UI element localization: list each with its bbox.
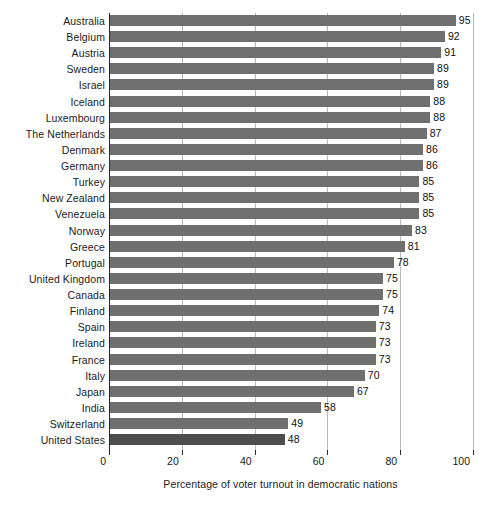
bar-row: Japan67 — [0, 385, 501, 401]
bar — [110, 47, 441, 58]
bar — [110, 402, 321, 413]
bar-row: Switzerland49 — [0, 417, 501, 433]
category-label: Iceland — [70, 96, 105, 108]
bar — [110, 192, 419, 203]
bar — [110, 31, 445, 42]
category-label: Australia — [63, 15, 105, 27]
category-label: Portugal — [65, 257, 105, 269]
x-tick-0 — [109, 450, 110, 455]
bar-value-label: 78 — [397, 256, 409, 268]
bar — [110, 128, 427, 139]
bar-row: Turkey85 — [0, 175, 501, 191]
bar-row: The Netherlands87 — [0, 127, 501, 143]
bar-row: United Kingdom75 — [0, 272, 501, 288]
bar — [110, 112, 430, 123]
category-label: Greece — [70, 241, 105, 253]
bar — [110, 289, 383, 300]
bar-value-label: 89 — [437, 62, 449, 74]
bar-row: Iceland88 — [0, 95, 501, 111]
bar-value-label: 85 — [422, 175, 434, 187]
category-label: United Kingdom — [29, 273, 105, 285]
category-label: Luxembourg — [46, 112, 105, 124]
x-tick-label-0: 0 — [100, 455, 109, 468]
bar-value-label: 87 — [430, 127, 442, 139]
category-label: Denmark — [62, 144, 105, 156]
bar-value-label: 70 — [368, 369, 380, 381]
bar — [110, 434, 285, 445]
category-label: Germany — [61, 160, 105, 172]
bar-row: Australia95 — [0, 14, 501, 30]
plot-area: Australia95Belgium92Austria91Sweden89Isr… — [0, 0, 501, 450]
bar-row: Denmark86 — [0, 143, 501, 159]
bar — [110, 144, 423, 155]
category-label: Sweden — [66, 63, 105, 75]
bar — [110, 160, 423, 171]
x-tick-80 — [400, 450, 401, 455]
bar-value-label: 91 — [444, 46, 456, 58]
bar-chart: Australia95Belgium92Austria91Sweden89Isr… — [0, 0, 501, 507]
bar — [110, 305, 379, 316]
x-tick-label-20: 20 — [167, 455, 182, 468]
category-label: Switzerland — [50, 418, 105, 430]
bar — [110, 370, 365, 381]
category-label: United States — [41, 434, 105, 446]
x-tick-40 — [255, 450, 256, 455]
category-label: Japan — [76, 386, 105, 398]
bar — [110, 386, 354, 397]
category-label: The Netherlands — [26, 128, 105, 140]
category-label: Italy — [85, 370, 105, 382]
bar-value-label: 73 — [379, 353, 391, 365]
category-label: Canada — [68, 289, 105, 301]
category-label: France — [72, 354, 105, 366]
category-label: New Zealand — [42, 192, 105, 204]
bar-row: India58 — [0, 401, 501, 417]
category-label: Austria — [72, 47, 105, 59]
bar-row: Ireland73 — [0, 336, 501, 352]
bar-value-label: 81 — [408, 240, 420, 252]
bar — [110, 418, 288, 429]
bar-value-label: 86 — [426, 143, 438, 155]
x-tick-20 — [182, 450, 183, 455]
category-label: Turkey — [73, 176, 105, 188]
category-label: Spain — [78, 321, 105, 333]
bar-value-label: 73 — [379, 336, 391, 348]
bar-value-label: 83 — [415, 224, 427, 236]
bar — [110, 176, 419, 187]
bar-value-label: 85 — [422, 191, 434, 203]
bar-value-label: 49 — [291, 417, 303, 429]
x-tick-label-40: 40 — [240, 455, 255, 468]
bar-value-label: 86 — [426, 159, 438, 171]
bar-value-label: 75 — [386, 272, 398, 284]
bar — [110, 241, 405, 252]
bar-row: Sweden89 — [0, 62, 501, 78]
bar-value-label: 74 — [382, 304, 394, 316]
bar — [110, 321, 376, 332]
bar — [110, 79, 434, 90]
bar — [110, 225, 412, 236]
x-tick-label-80: 80 — [386, 455, 401, 468]
category-label: Venezuela — [55, 208, 105, 220]
category-label: Finland — [70, 305, 105, 317]
category-label: Ireland — [72, 337, 105, 349]
bar-row: Finland74 — [0, 304, 501, 320]
bar-row: Israel89 — [0, 78, 501, 94]
bar — [110, 63, 434, 74]
bar-value-label: 85 — [422, 207, 434, 219]
bar-row: Germany86 — [0, 159, 501, 175]
bar — [110, 208, 419, 219]
category-label: Belgium — [66, 31, 105, 43]
bar-row: Luxembourg88 — [0, 111, 501, 127]
bar-row: Spain73 — [0, 320, 501, 336]
category-label: Israel — [79, 79, 105, 91]
bar-value-label: 89 — [437, 78, 449, 90]
bar-value-label: 88 — [433, 111, 445, 123]
category-label: India — [82, 402, 105, 414]
bar-value-label: 75 — [386, 288, 398, 300]
bar — [110, 257, 394, 268]
bar-value-label: 73 — [379, 320, 391, 332]
x-tick-label-60: 60 — [313, 455, 328, 468]
category-label: Norway — [69, 225, 105, 237]
bar — [110, 15, 456, 26]
bar-row: Canada75 — [0, 288, 501, 304]
bar-value-label: 58 — [324, 401, 336, 413]
